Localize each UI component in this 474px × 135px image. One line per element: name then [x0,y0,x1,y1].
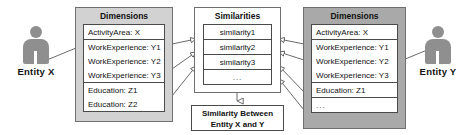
dimension-group: ActivityArea: X [312,25,397,40]
dimension-row: Education: Z1 [312,83,397,97]
dimension-group: ActivityArea: X [84,25,164,40]
similarity-row: similarity3 [204,55,271,70]
similarities-title: Similarities [195,8,280,24]
result-line-1: Similarity Between [192,108,283,119]
dimension-row: WorkExperience: Y3 [312,68,397,82]
similarity-result-box: Similarity Between Entity X and Y [191,105,284,131]
similarities-panel: Similarities similarity1 similarity2 sim… [194,7,281,93]
dimension-group: WorkExperience: Y1 WorkExperience: Y2 Wo… [84,40,164,83]
dimension-row: WorkExperience: Y1 [312,40,397,54]
dimension-group: ... [312,98,397,112]
link-left-education-sim3 [172,66,196,96]
dimensions-left-title: Dimensions [76,8,172,24]
dimensions-panel-left: Dimensions ActivityArea: X WorkExperienc… [75,7,173,122]
dimension-row: WorkExperience: Y3 [84,68,164,82]
person-leg-gap [34,51,37,64]
entity-y-label: Entity Y [408,66,468,77]
result-line-2: Entity X and Y [192,119,283,130]
person-icon [423,26,453,64]
dimensions-left-list: ActivityArea: X WorkExperience: Y1 WorkE… [83,24,165,112]
similarities-list: similarity1 similarity2 similarity3 ... [203,24,272,85]
diagram-canvas: Entity X Entity Y Dimensions ActivityAre… [0,0,474,135]
dimension-group: Education: Z1 [312,83,397,98]
similarity-row-more: ... [204,70,271,84]
person-leg-gap [436,51,439,64]
person-icon [21,26,51,64]
dimension-group: Education: Z1 Education: Z2 [84,83,164,111]
dimension-row-more: ... [312,98,397,112]
dimensions-right-list: ActivityArea: X WorkExperience: Y1 WorkE… [311,24,398,113]
dimension-row: Education: Z2 [84,97,164,111]
dimension-row: WorkExperience: Y2 [312,54,397,68]
entity-x: Entity X [6,26,66,77]
dimension-row: WorkExperience: Y1 [84,40,164,54]
dimension-row: WorkExperience: Y2 [84,54,164,68]
entity-x-label: Entity X [6,66,66,77]
dimension-row: Education: Z1 [84,83,164,97]
person-head-icon [432,26,444,38]
person-head-icon [30,26,42,38]
link-right-education-sim3 [279,66,304,92]
link-left-activity-sim1 [172,39,196,44]
dimension-group: WorkExperience: Y1 WorkExperience: Y2 Wo… [312,40,397,83]
link-right-work-sim2 [279,52,304,60]
entity-y: Entity Y [408,26,468,77]
link-left-work-sim2 [172,52,196,69]
similarity-row: similarity1 [204,25,271,40]
dimension-row: ActivityArea: X [84,25,164,39]
link-right-activity-sim1 [279,39,304,44]
dimensions-right-title: Dimensions [304,8,405,24]
dimension-row: ActivityArea: X [312,25,397,39]
dimensions-panel-right: Dimensions ActivityArea: X WorkExperienc… [303,7,406,129]
similarity-row: similarity2 [204,40,271,55]
